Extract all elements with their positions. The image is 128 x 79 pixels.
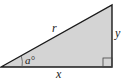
angle-label: a° [25, 54, 36, 66]
hypotenuse-label: r [52, 21, 57, 35]
triangle-shape [1, 5, 112, 67]
adjacent-label: x [55, 67, 62, 79]
opposite-label: y [114, 26, 121, 40]
right-triangle-diagram: r y x a° [0, 0, 128, 79]
